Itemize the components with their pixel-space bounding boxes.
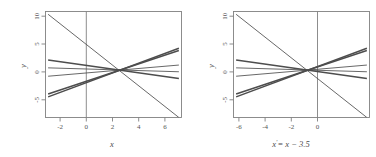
plot-frame-left [46,12,182,118]
left-plot-svg: 10 5 0 -5 y -2 0 2 4 6 x [0,0,188,157]
data-line [48,68,179,72]
y-tick-label: 5 [221,42,229,46]
x-tick-label: -2 [57,123,63,131]
data-line [236,68,367,72]
y-tick-label: 10 [33,12,41,20]
y-tick-label: 5 [33,42,41,46]
chart-panel-right: 10 5 0 -5 y -6 -4 -2 0 x′= x − 3.5 [188,0,376,157]
x-tick-label: 0 [85,123,89,131]
x-tick-label: -4 [262,123,268,131]
x-tick-label: -6 [236,123,242,131]
data-line [48,48,179,97]
data-line [48,60,179,78]
x-tick-label: 2 [111,123,115,131]
plot-frame-right [234,12,370,118]
xprime-rest: = x − 3.5 [277,139,309,149]
y-ticks-right [230,16,234,100]
chart-panel-left: 10 5 0 -5 y -2 0 2 4 6 x [0,0,188,157]
y-tick-label: 0 [33,70,41,74]
data-line [236,60,367,78]
data-line [236,65,367,76]
figure-container: 10 5 0 -5 y -2 0 2 4 6 x [0,0,376,157]
x-ticks-right [239,118,318,122]
y-ticks-left [42,16,46,100]
data-line [236,48,367,97]
y-axis-title-left: y [18,64,28,69]
data-line [48,65,179,76]
y-tick-label: 10 [221,12,229,20]
data-line [48,14,179,117]
x-ticks-left [60,118,165,122]
y-tick-label: -5 [221,96,229,102]
data-lines-left [48,14,179,117]
data-line [236,14,367,117]
x-axis-title-left: x [109,139,114,149]
right-plot-svg: 10 5 0 -5 y -6 -4 -2 0 x′= x − 3.5 [188,0,376,157]
x-tick-label: 0 [316,123,320,131]
x-tick-label: 4 [137,123,141,131]
y-axis-title-right: y [206,64,216,69]
data-lines-right [236,14,367,117]
x-axis-title-right: x′= x − 3.5 [271,139,309,149]
y-tick-label: 0 [221,70,229,74]
x-tick-label: -2 [288,123,294,131]
y-tick-label: -5 [33,96,41,102]
x-tick-label: 6 [163,123,167,131]
